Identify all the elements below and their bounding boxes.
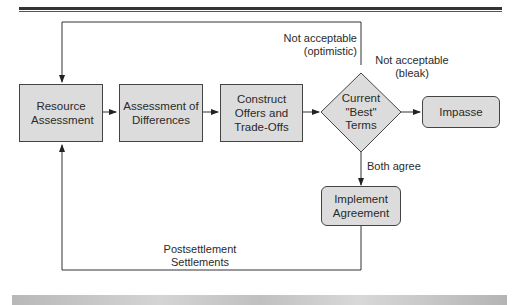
bleak-label-2: (bleak) (366, 67, 458, 80)
postsettlement-label-2: Settlements (150, 256, 250, 269)
postsettlement-label-1: Postsettlement (150, 243, 250, 256)
construct-offers-box: Construct Offers and Trade-Offs (220, 84, 303, 142)
resource-assessment-box: Resource Assessment (19, 84, 103, 142)
construct-offers-label: Construct Offers and Trade-Offs (229, 92, 295, 134)
assessment-of-differences-box: Assessment of Differences (119, 84, 203, 142)
impasse-box: Impasse (422, 96, 500, 128)
implement-agreement-box: Implement Agreement (321, 186, 401, 226)
optimistic-label-1: Not acceptable (265, 32, 357, 45)
both-agree-label: Both agree (367, 160, 437, 173)
decorative-band (12, 295, 507, 305)
bleak-label-1: Not acceptable (366, 54, 458, 67)
resource-assessment-label: Resource Assessment (31, 99, 91, 127)
assessment-of-differences-label: Assessment of Differences (123, 99, 199, 127)
connector-lines (0, 0, 517, 305)
optimistic-label-2: (optimistic) (265, 45, 357, 58)
current-best-terms-label: Current "Best" Terms (331, 92, 391, 133)
implement-agreement-label: Implement Agreement (328, 192, 394, 220)
impasse-label: Impasse (439, 105, 482, 119)
